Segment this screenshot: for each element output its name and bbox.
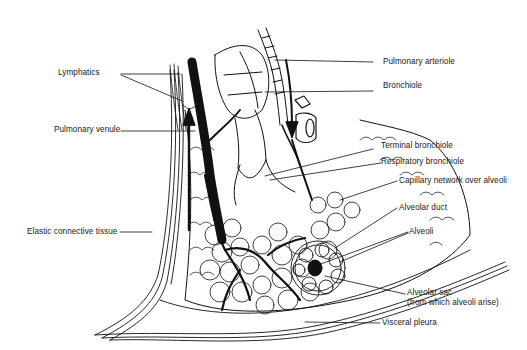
cut-vessel-end <box>295 96 316 143</box>
label-respiratory-bronchiole: Respiratory bronchiole <box>381 157 464 167</box>
label-alveolar-duct: Alveolar duct <box>399 203 447 213</box>
label-lymphatics: Lymphatics <box>58 68 100 78</box>
label-pulmonary-arteriole: Pulmonary arteriole <box>383 57 455 67</box>
alveolar-sac <box>291 241 345 295</box>
venule-flow-arrow <box>183 108 195 230</box>
label-bronchiole: Bronchiole <box>383 81 422 91</box>
label-visceral-pleura: Visceral pleura <box>382 318 437 328</box>
label-capillary-network: Capillary network over alveoli <box>399 176 507 186</box>
label-alveolar-sac-note: (from which alveoli arise) <box>407 298 499 308</box>
pulmonary-venule-vessel <box>192 62 240 240</box>
label-alveolar-sac: Alveolar sac <box>407 288 452 298</box>
label-terminal-bronchiole: Terminal bronchiole <box>381 141 453 151</box>
label-elastic-connective-tissue: Elastic connective tissue <box>27 227 117 237</box>
label-alveoli: Alveoli <box>409 227 433 237</box>
lung-lobule-diagram: Lymphatics Pulmonary venule Elastic conn… <box>0 0 527 350</box>
bronchiole-structure <box>215 46 295 205</box>
label-pulmonary-venule: Pulmonary venule <box>54 125 120 135</box>
arteriole-flow-arrow <box>286 60 312 200</box>
leader-lines <box>120 60 408 323</box>
